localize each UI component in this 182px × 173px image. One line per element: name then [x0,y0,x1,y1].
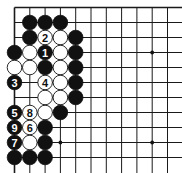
black-stone-move-7: 7 [7,135,22,150]
white-stone [53,75,68,90]
black-stone-icon [68,30,83,45]
black-stone-move-3: 3 [7,75,22,90]
black-stone-icon [7,45,22,60]
white-stone-icon [38,90,53,105]
white-stone-icon [23,60,38,75]
black-stone [7,150,22,165]
black-stone-icon [53,105,68,120]
black-stone [53,105,68,120]
black-stone-move-1: 1 [38,45,53,60]
move-number: 8 [27,107,33,119]
white-stone-icon [23,45,38,60]
move-number: 3 [11,77,17,89]
black-stone [38,120,53,135]
black-stone-icon [7,150,22,165]
white-stone [23,45,38,60]
black-stone-icon [23,150,38,165]
black-stone [68,60,83,75]
white-stone [53,30,68,45]
white-stone-icon [53,45,68,60]
white-stone [38,90,53,105]
move-number: 5 [11,107,17,119]
black-stone [53,15,68,30]
move-number: 1 [42,47,48,59]
black-stone-icon [38,120,53,135]
move-number: 6 [27,122,33,134]
black-stone-icon [68,75,83,90]
go-board: 213458967 [0,0,182,173]
black-stone-icon [38,15,53,30]
black-stone [38,60,53,75]
white-stone-move-2: 2 [38,30,53,45]
move-number: 4 [42,77,49,89]
move-number: 9 [11,122,17,134]
white-stone [23,60,38,75]
move-number: 7 [11,137,17,149]
black-stone-icon [53,15,68,30]
black-stone-move-5: 5 [7,105,22,120]
white-stone-icon [38,105,53,120]
star-point-icon [150,51,154,55]
white-stone-move-8: 8 [23,105,38,120]
white-stone [53,60,68,75]
black-stone-icon [23,15,38,30]
white-stone-icon [53,75,68,90]
white-stone [7,60,22,75]
black-stone [7,45,22,60]
black-stone [23,150,38,165]
white-stone-icon [53,60,68,75]
black-stone-icon [38,150,53,165]
white-stone-icon [23,135,38,150]
black-stone [68,30,83,45]
black-stone [38,135,53,150]
black-stone [38,15,53,30]
star-point-icon [150,141,154,145]
white-stone [38,105,53,120]
black-stone [68,90,83,105]
black-stone-icon [68,60,83,75]
white-stone-icon [53,90,68,105]
white-stone-icon [53,30,68,45]
white-stone-icon [7,60,22,75]
white-stone [53,45,68,60]
black-stone-icon [38,135,53,150]
black-stone [38,150,53,165]
black-stone-move-9: 9 [7,120,22,135]
move-number: 2 [42,32,48,44]
black-stone [23,15,38,30]
white-stone-move-4: 4 [38,75,53,90]
black-stone [68,45,83,60]
black-stone [68,75,83,90]
black-stone [23,30,38,45]
black-stone-icon [68,90,83,105]
white-stone [53,90,68,105]
white-stone-move-6: 6 [23,120,38,135]
black-stone-icon [23,30,38,45]
star-point-icon [59,141,63,145]
black-stone-icon [68,45,83,60]
black-stone-icon [38,60,53,75]
white-stone [23,135,38,150]
